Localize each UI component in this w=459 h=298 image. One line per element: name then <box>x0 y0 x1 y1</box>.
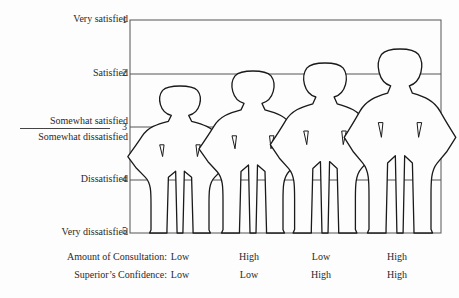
confidence-value-1: Low <box>171 269 189 280</box>
figure-high-high <box>344 49 456 233</box>
confidence-value-2: Low <box>240 269 258 280</box>
consultation-value-4: High <box>387 251 407 262</box>
consultation-value-1: Low <box>171 251 189 262</box>
consultation-label: Amount of Consultation: <box>67 251 167 262</box>
confidence-value-4: High <box>387 269 407 280</box>
confidence-value-3: High <box>311 269 331 280</box>
consultation-value-3: Low <box>312 251 330 262</box>
confidence-label: Superior’s Confidence: <box>74 269 167 280</box>
consultation-value-2: High <box>239 251 259 262</box>
